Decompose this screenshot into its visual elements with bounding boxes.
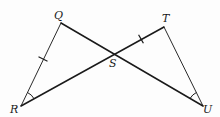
angle-arc-r — [28, 93, 35, 99]
label-t: T — [162, 12, 171, 25]
geometry-diagram: Q T R U S — [0, 0, 220, 117]
angle-arc-u — [190, 93, 196, 99]
label-r: R — [9, 103, 18, 116]
segment-qu — [61, 23, 203, 106]
segment-rt — [21, 27, 164, 106]
label-q: Q — [54, 9, 63, 22]
segment-qr — [21, 23, 61, 106]
label-u: U — [203, 103, 213, 116]
triangle-figure: Q T R U S — [0, 0, 220, 117]
label-s: S — [109, 57, 117, 70]
